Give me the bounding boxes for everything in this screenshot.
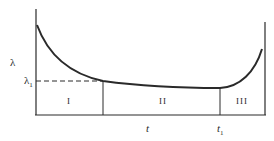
x-axis-label: t [146,123,149,134]
y-axis-label: λ [10,57,15,68]
t1-subscript: 1 [220,129,224,137]
hazard-curve [37,25,262,88]
region-i-label: I [67,96,71,107]
lambda1-subscript: 1 [29,81,33,89]
t1-label: t1 [217,123,224,139]
region-iii-label: III [236,96,248,107]
lambda1-label: λ1 [24,75,33,91]
bathtub-diagram [0,0,274,141]
region-ii-label: II [159,96,167,107]
